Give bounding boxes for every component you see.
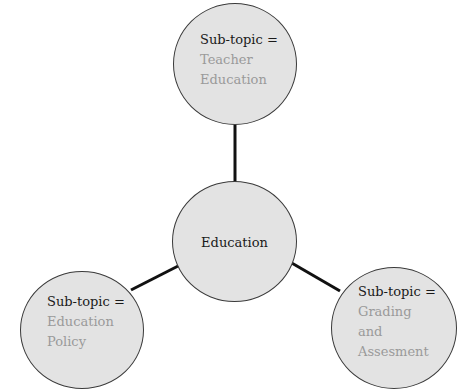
- node-prefix: Sub-topic =: [358, 282, 436, 302]
- node-topic-line: Education: [47, 312, 125, 332]
- node-education-policy: Sub-topic = Education Policy: [20, 271, 144, 389]
- node-teacher-education: Sub-topic = Teacher Education: [173, 3, 297, 125]
- node-topic-line: Assesment: [358, 342, 436, 362]
- node-topic-line: Education: [200, 70, 278, 90]
- node-topic-line: Policy: [47, 332, 125, 352]
- node-prefix: Sub-topic =: [47, 292, 125, 312]
- node-education-center: Education: [172, 181, 297, 302]
- node-topic-line: Grading: [358, 302, 436, 322]
- node-topic-line: Teacher: [200, 50, 278, 70]
- center-label: Education: [173, 234, 296, 249]
- edge-center-right: [290, 262, 340, 291]
- node-grading-assesment: Sub-topic = Grading and Assesment: [331, 267, 457, 389]
- node-topic-line: and: [358, 322, 436, 342]
- edge-center-left: [131, 263, 184, 290]
- node-prefix: Sub-topic =: [200, 30, 278, 50]
